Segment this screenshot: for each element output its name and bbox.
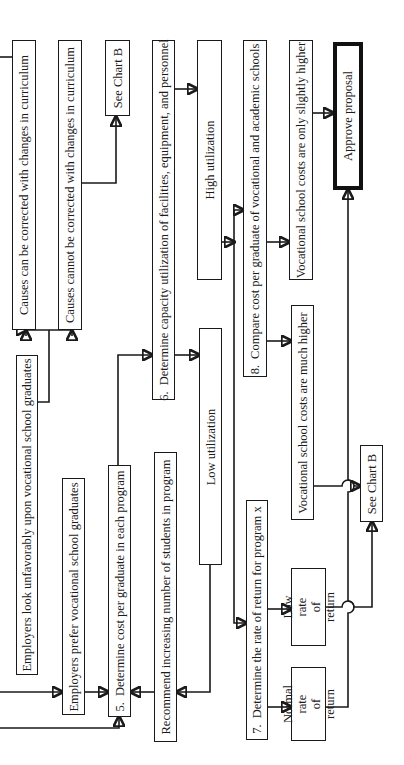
node-high-utilization: High utilization [197,40,222,280]
node-recommend-increase: Recommend increasing number of students … [154,452,177,742]
node-see-chart-b-bottom: See Chart B [360,445,383,522]
node-step-7: 7.Determine the rate of return for progr… [246,500,268,740]
node-normal-rate-of-return: Normal rateof return [291,667,326,741]
node-employers-unfavorable: Employers look unfavorably upon vocation… [16,355,38,675]
step-number: 6. [157,391,171,400]
node-causes-cannot-be-corrected: Causes cannot be corrected with changes … [58,40,82,330]
node-see-chart-b-top: See Chart B [105,40,130,116]
node-employers-prefer: Employers prefer vocational school gradu… [62,478,85,715]
node-step-8: 8.Compare cost per graduate of vocationa… [243,40,267,377]
node-costs-much-higher: Vocational school costs are much higher [291,305,314,520]
node-costs-slightly-higher: Vocational school costs are only slightl… [289,40,313,280]
node-approve-proposal: Approve proposal [333,42,363,190]
node-step-5: 5.Determine cost per graduate in each pr… [108,465,131,717]
node-step-6: 6.Determine capacity utilization of faci… [152,40,175,400]
step-number: 7. [250,724,264,733]
step-number: 5. [113,702,127,711]
step-number: 8. [248,364,262,373]
node-causes-can-be-corrected: Causes can be corrected with changes in … [12,40,36,330]
node-low-rate-of-return: Low rateof return [291,568,326,646]
node-low-utilization: Low utilization [199,328,222,565]
